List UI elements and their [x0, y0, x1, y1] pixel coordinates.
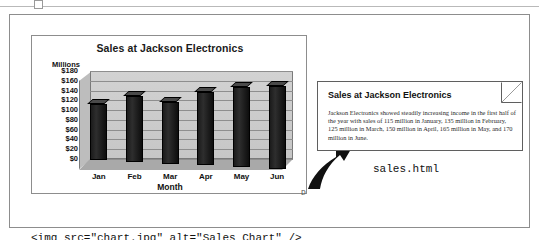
- linked-page-title: Sales at Jackson Electronics: [328, 90, 452, 100]
- chart-bar: [162, 98, 179, 170]
- top-edge-marker: [34, 0, 43, 9]
- html-code-snippet: <img src="chart.jpg" alt="Sales Chart" /…: [31, 203, 302, 240]
- chart-bar-front: [269, 86, 286, 169]
- chart-bar: [233, 78, 250, 170]
- chart-bar-front: [162, 102, 179, 163]
- y-axis-tick: $160: [61, 76, 78, 85]
- y-axis-tick: $80: [65, 115, 78, 124]
- x-axis-tick: Jun: [263, 172, 292, 181]
- sales-bar-chart: Sales at Jackson Electronics Millions $1…: [31, 35, 307, 194]
- page-fold-lines-icon: [501, 82, 522, 103]
- y-axis-tick: $60: [65, 125, 78, 134]
- page-frame: Sales at Jackson Electronics Millions $1…: [9, 14, 530, 228]
- linked-page-body: Jackson Electronics showed steadily incr…: [328, 109, 516, 142]
- y-axis-tick: $0: [70, 154, 78, 163]
- code-line-img: <img src="chart.jpg" alt="Sales Chart" /…: [31, 231, 302, 240]
- chart-bar-front: [90, 104, 107, 160]
- x-axis-tick: Apr: [191, 172, 220, 181]
- y-axis-tick: $20: [65, 144, 78, 153]
- chart-bar: [197, 86, 214, 170]
- y-axis-tick: $180: [61, 66, 78, 75]
- chart-bar: [90, 103, 107, 170]
- y-axis-tick-labels: $180$160$140$120$100$80$60$40$20$0: [40, 67, 78, 167]
- chart-bars: [79, 71, 293, 170]
- x-axis-tick: Jan: [84, 172, 113, 181]
- x-axis-tick: Feb: [120, 172, 149, 181]
- chart-bar-front: [197, 92, 214, 165]
- linked-page-preview[interactable]: Sales at Jackson Electronics Jackson Ele…: [317, 81, 523, 151]
- filename-caption: sales.html: [373, 163, 439, 175]
- y-axis-tick: $40: [65, 134, 78, 143]
- chart-bar-front: [126, 96, 143, 162]
- x-axis-tick: May: [227, 172, 256, 181]
- y-axis-tick: $120: [61, 95, 78, 104]
- chart-title: Sales at Jackson Electronics: [32, 42, 308, 54]
- chart-bar: [269, 76, 286, 170]
- y-axis-tick: $140: [61, 86, 78, 95]
- y-axis-tick: $100: [61, 105, 78, 114]
- chart-bar: [126, 93, 143, 170]
- chart-bar-front: [233, 87, 250, 168]
- x-axis-title: Month: [32, 182, 308, 192]
- x-axis-tick: Mar: [156, 172, 185, 181]
- top-edge-rule: [0, 6, 539, 7]
